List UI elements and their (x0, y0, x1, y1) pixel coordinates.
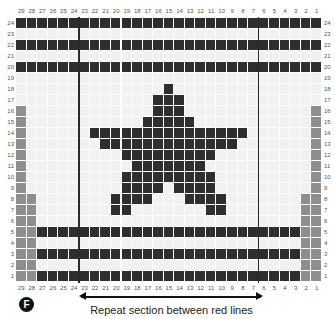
chart-cell (58, 95, 68, 105)
chart-cell (301, 150, 311, 160)
chart-cell (27, 227, 37, 237)
chart-cell (311, 128, 321, 138)
chart-cell (132, 238, 142, 248)
chart-cell (238, 106, 248, 116)
chart-cell (111, 183, 121, 193)
chart-cell (227, 18, 237, 28)
chart-cell (100, 117, 110, 127)
chart-cell (174, 18, 184, 28)
chart-cell (69, 260, 79, 270)
chart-cell (153, 227, 163, 237)
chart-cell (111, 117, 121, 127)
chart-cell (37, 40, 47, 50)
chart-cell (143, 260, 153, 270)
chart-cell (290, 40, 300, 50)
chart-cell (153, 51, 163, 61)
chart-cell (238, 84, 248, 94)
chart-cell (27, 117, 37, 127)
chart-cell (248, 238, 258, 248)
row-label: 15 (2, 117, 14, 128)
column-label: 9 (227, 285, 238, 291)
chart-cell (195, 216, 205, 226)
chart-cell (206, 95, 216, 105)
chart-cell (248, 62, 258, 72)
chart-cell (280, 128, 290, 138)
chart-cell (79, 172, 89, 182)
chart-cell (174, 216, 184, 226)
chart-cell (79, 238, 89, 248)
chart-cell (311, 139, 321, 149)
chart-cell (111, 73, 121, 83)
chart-cell (195, 128, 205, 138)
row-label: 21 (2, 51, 14, 62)
chart-cell (69, 139, 79, 149)
column-label: 29 (16, 285, 27, 291)
chart-cell (153, 238, 163, 248)
chart-cell (195, 205, 205, 215)
chart-cell (122, 18, 132, 28)
chart-cell (37, 150, 47, 160)
chart-cell (280, 238, 290, 248)
column-label: 25 (58, 285, 69, 291)
chart-cell (164, 205, 174, 215)
chart-cell (48, 227, 58, 237)
chart-cell (69, 40, 79, 50)
chart-cell (27, 128, 37, 138)
chart-cell (238, 227, 248, 237)
column-label: 14 (174, 8, 185, 14)
chart-cell (238, 172, 248, 182)
column-label: 4 (280, 285, 291, 291)
column-label: 6 (259, 285, 270, 291)
chart-cell (259, 106, 269, 116)
column-label: 20 (111, 285, 122, 291)
chart-cell (259, 205, 269, 215)
chart-cell (195, 84, 205, 94)
column-label: 12 (195, 8, 206, 14)
chart-cell (111, 62, 121, 72)
chart-cell (90, 150, 100, 160)
chart-cell (143, 40, 153, 50)
chart-cell (37, 139, 47, 149)
chart-cell (280, 106, 290, 116)
chart-cell (90, 271, 100, 281)
chart-cell (259, 183, 269, 193)
chart-cell (48, 95, 58, 105)
chart-cell (164, 29, 174, 39)
chart-cell (153, 139, 163, 149)
chart-cell (227, 62, 237, 72)
chart-cell (174, 150, 184, 160)
chart-cell (132, 271, 142, 281)
column-label: 17 (143, 285, 154, 291)
chart-cell (153, 128, 163, 138)
chart-cell (290, 84, 300, 94)
chart-cell (100, 51, 110, 61)
chart-cell (58, 249, 68, 259)
chart-cell (122, 271, 132, 281)
chart-cell (69, 62, 79, 72)
chart-cell (269, 73, 279, 83)
column-label: 5 (269, 8, 280, 14)
column-label: 18 (132, 285, 143, 291)
chart-cell (90, 139, 100, 149)
chart-cell (111, 84, 121, 94)
chart-cell (69, 18, 79, 28)
chart-cell (90, 172, 100, 182)
chart-cell (227, 29, 237, 39)
chart-cell (16, 18, 26, 28)
chart-cell (227, 128, 237, 138)
chart-cell (79, 139, 89, 149)
chart-cell (269, 117, 279, 127)
row-label: 3 (324, 249, 335, 260)
chart-cell (280, 73, 290, 83)
chart-cell (143, 84, 153, 94)
chart-cell (185, 216, 195, 226)
row-label: 10 (2, 172, 14, 183)
chart-cell (238, 271, 248, 281)
chart-cell (122, 84, 132, 94)
chart-cell (111, 95, 121, 105)
chart-cell (79, 106, 89, 116)
chart-cell (153, 73, 163, 83)
chart-cell (248, 106, 258, 116)
chart-cell (79, 51, 89, 61)
chart-cell (153, 117, 163, 127)
